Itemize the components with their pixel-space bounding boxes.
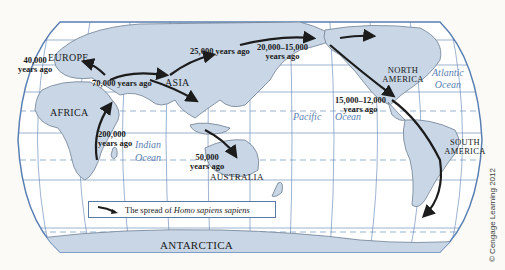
date-line: years ago: [257, 52, 308, 61]
date-asia: 25,000 years ago: [190, 47, 250, 56]
label-europe: EUROPE: [48, 53, 89, 63]
date-australia: 50,000 years ago: [190, 153, 224, 170]
ocean-word: Indian: [135, 140, 161, 150]
legend-prefix: The spread of: [125, 205, 174, 215]
date-line: years ago: [190, 162, 224, 171]
label-africa: AFRICA: [50, 108, 88, 118]
label-australia: AUSTRALIA: [210, 173, 264, 182]
label-pacific: Pacific: [293, 112, 321, 122]
ocean-word: Ocean: [135, 153, 161, 163]
legend-label: The spread of Homo sapiens sapiens: [125, 205, 250, 215]
label-indian-ocean: Indian Ocean: [135, 140, 161, 163]
date-beringia: 20,000–15,000 years ago: [257, 43, 308, 60]
date-line: years ago: [335, 105, 386, 114]
map-legend: The spread of Homo sapiens sapiens: [88, 201, 276, 218]
legend-species: Homo sapiens sapiens: [174, 205, 250, 215]
date-africa: 200,000 years ago: [98, 130, 132, 147]
date-americas: 15,000–12,000 years ago: [335, 96, 386, 113]
date-europe: 40,000 years ago: [18, 56, 52, 73]
date-line: years ago: [18, 65, 52, 74]
label-atlantic-ocean: Atlantic Ocean: [432, 68, 464, 90]
label-pacific-ocean: Ocean: [335, 112, 361, 122]
ocean-word: Ocean: [432, 80, 464, 90]
date-line: years ago: [98, 139, 132, 148]
label-asia: ASIA: [165, 78, 190, 88]
arrow-icon: [97, 205, 119, 215]
copyright-credit: © Cengage Learning 2012: [488, 168, 497, 262]
ocean-word: Atlantic: [432, 68, 464, 78]
label-north-america: NORTH AMERICA: [378, 66, 428, 85]
date-middle-east: 70,000 years ago: [92, 79, 152, 88]
world-map: [0, 0, 505, 270]
label-south-america: SOUTH AMERICA: [440, 138, 490, 157]
label-antarctica: ANTARCTICA: [160, 240, 233, 251]
